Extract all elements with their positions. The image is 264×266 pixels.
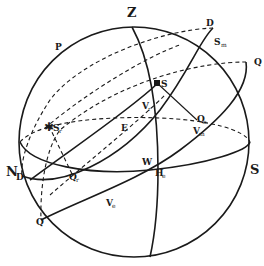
- celestial-sphere-outline: [19, 27, 249, 257]
- label-s-m: S m: [214, 37, 227, 48]
- equator-back: [41, 62, 246, 220]
- label-v-e: V e: [105, 198, 116, 209]
- label-zenith: Z: [127, 5, 137, 20]
- horizon-front: [20, 142, 250, 172]
- label-q-top: Q: [254, 57, 262, 67]
- label-v-r: V r: [141, 101, 151, 112]
- celestial-sphere-diagram: ✱ Z P N S E W D D Q Q S m S S r V r: [0, 0, 264, 266]
- svg-text:m: m: [221, 41, 227, 48]
- label-south: S: [250, 162, 259, 177]
- label-q-bottom: Q: [36, 217, 44, 227]
- svg-text:r: r: [148, 105, 151, 112]
- label-q-r: Q r: [69, 172, 79, 183]
- prime-vertical: [132, 27, 158, 257]
- svg-text:S: S: [161, 79, 168, 89]
- label-pole: P: [55, 42, 62, 52]
- diurnal-circle-front: [22, 28, 213, 179]
- svg-text:S: S: [214, 37, 221, 47]
- diurnal-circle-back: [22, 28, 213, 176]
- label-v-m: V m: [192, 126, 205, 137]
- equator-front: [41, 62, 246, 220]
- svg-text:r: r: [76, 176, 79, 183]
- svg-text:e: e: [112, 202, 116, 209]
- svg-text:r: r: [59, 127, 62, 134]
- label-s: S: [161, 79, 168, 89]
- svg-text:e: e: [162, 172, 166, 179]
- label-q-e: Q e: [197, 114, 207, 125]
- star-s-icon: [154, 80, 160, 86]
- label-d-top: D: [206, 18, 214, 28]
- svg-text:m: m: [199, 130, 205, 137]
- label-d-left: D: [16, 172, 24, 182]
- label-s-r: S r: [53, 123, 62, 134]
- svg-text:e: e: [203, 118, 207, 125]
- label-h-e: H e: [155, 168, 166, 179]
- dashed-pole-line: [45, 45, 180, 128]
- label-east: E: [121, 123, 128, 133]
- label-west: W: [141, 157, 153, 167]
